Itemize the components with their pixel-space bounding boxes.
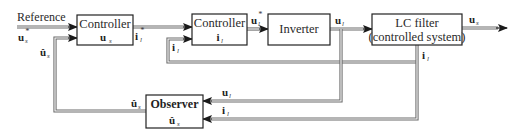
- svg-text:s: s: [476, 19, 479, 27]
- label-obs-in-ul: u l: [222, 86, 231, 100]
- svg-text:l: l: [227, 110, 229, 118]
- label-il-out: i l: [422, 49, 429, 63]
- svg-text:l: l: [258, 20, 260, 28]
- svg-text:s: s: [109, 37, 112, 45]
- svg-text:Observer: Observer: [151, 97, 200, 111]
- label-ul-ref: u l *: [251, 10, 262, 28]
- svg-text:i: i: [216, 31, 219, 43]
- svg-text:*: *: [140, 26, 144, 35]
- block-observer: Observer û s: [146, 95, 203, 128]
- svg-text:û: û: [131, 97, 137, 109]
- label-reference: Reference: [17, 10, 66, 24]
- svg-text:i: i: [422, 49, 425, 61]
- svg-text:û: û: [40, 46, 46, 58]
- block-inverter: Inverter: [268, 14, 330, 45]
- svg-text:s: s: [47, 52, 50, 60]
- label-obs-us-hat: û s: [131, 97, 141, 111]
- svg-text:u: u: [222, 86, 228, 98]
- svg-text:s: s: [138, 103, 141, 111]
- svg-text:i: i: [222, 104, 225, 116]
- svg-text:*: *: [25, 27, 29, 36]
- svg-text:l: l: [427, 55, 429, 63]
- svg-text:Controller: Controller: [79, 17, 131, 31]
- svg-text:(controlled system): (controlled system): [369, 30, 466, 44]
- svg-text:û: û: [169, 114, 175, 126]
- svg-text:LC filter: LC filter: [395, 16, 439, 30]
- svg-text:*: *: [258, 10, 262, 19]
- label-ul: u l: [335, 14, 344, 28]
- label-il-ref: i l *: [135, 26, 144, 44]
- block-controller-us: Controller u s: [77, 15, 133, 45]
- svg-text:i: i: [135, 30, 138, 42]
- block-controller-il: Controller i l: [192, 14, 247, 45]
- svg-text:Inverter: Inverter: [279, 22, 319, 36]
- svg-text:i: i: [172, 41, 175, 53]
- svg-text:u: u: [469, 13, 475, 25]
- label-us-out: u s: [469, 13, 479, 27]
- svg-text:u: u: [100, 31, 106, 43]
- label-obs-in-il: i l: [222, 104, 229, 118]
- svg-text:l: l: [177, 47, 179, 55]
- svg-text:Controller: Controller: [194, 16, 246, 30]
- block-diagram: Controller u s Controller i l Inverter L…: [0, 0, 514, 131]
- svg-text:u: u: [18, 31, 24, 43]
- svg-text:u: u: [251, 14, 257, 26]
- svg-text:s: s: [25, 37, 28, 45]
- svg-text:l: l: [342, 20, 344, 28]
- svg-text:l: l: [140, 36, 142, 44]
- svg-text:u: u: [335, 14, 341, 26]
- block-lc-filter: LC filter (controlled system): [369, 14, 466, 45]
- wire-il-to-observer: [203, 45, 417, 119]
- label-il-feedback: i l: [172, 41, 179, 55]
- svg-text:l: l: [221, 37, 223, 45]
- svg-text:l: l: [229, 92, 231, 100]
- label-us-hat-feedback: û s: [40, 46, 50, 60]
- svg-text:s: s: [177, 120, 180, 128]
- label-us-ref: u s *: [18, 27, 29, 45]
